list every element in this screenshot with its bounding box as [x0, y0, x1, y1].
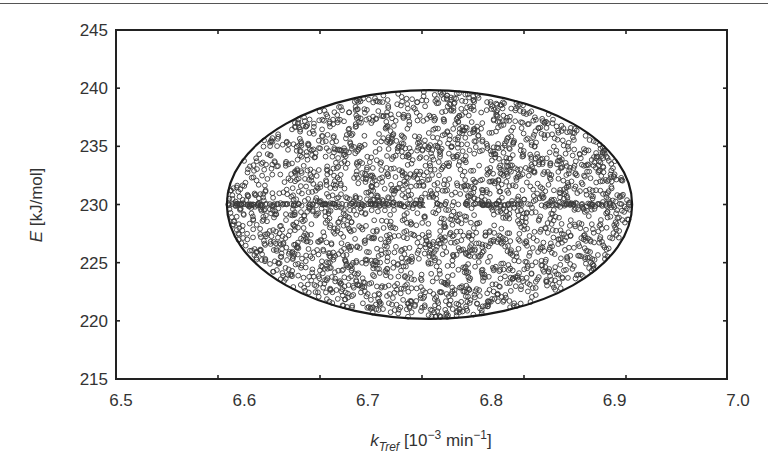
y-tick-label: 240: [80, 79, 108, 98]
y-axis-label: E [kJ/mol]: [27, 168, 46, 243]
scatter-chart: 6.56.66.76.86.97.0 245240235230225220215…: [0, 0, 768, 469]
y-tick-label: 225: [80, 254, 108, 273]
x-tick-label: 6.7: [356, 391, 380, 410]
x-tick-label: 6.8: [479, 391, 503, 410]
x-axis-tick-labels: 6.56.66.76.86.97.0: [109, 391, 750, 410]
y-tick-label: 230: [80, 196, 108, 215]
y-tick-label: 220: [80, 312, 108, 331]
y-tick-label: 215: [80, 370, 108, 389]
y-tick-label: 235: [80, 137, 108, 156]
nominal-point-marker: [425, 200, 435, 210]
x-axis-label: kTref [10−3 min−1]: [370, 428, 492, 454]
x-tick-label: 6.6: [233, 391, 257, 410]
y-tick-label: 245: [80, 21, 108, 40]
x-tick-label: 6.9: [603, 391, 627, 410]
x-tick-label: 6.5: [109, 391, 133, 410]
x-tick-label: 7.0: [726, 391, 750, 410]
y-axis-tick-labels: 245240235230225220215: [80, 21, 108, 389]
